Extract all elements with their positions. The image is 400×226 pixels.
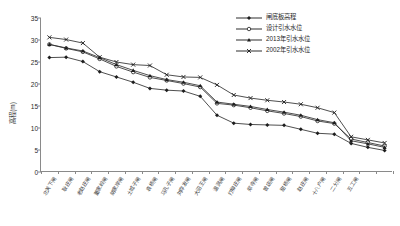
legend-label: 2013年引水水位 bbox=[266, 36, 310, 42]
y-tick-label: 10 bbox=[12, 125, 41, 132]
data-point-diamond bbox=[165, 88, 169, 92]
legend-item[interactable]: 2002年引水水位 bbox=[236, 45, 310, 56]
data-point-cross bbox=[247, 49, 251, 53]
x-tick-label: 甜桥闸 bbox=[278, 176, 293, 193]
data-point-diamond bbox=[114, 75, 118, 79]
y-tick-label: 5 bbox=[12, 147, 41, 154]
legend-label: 闸底板高程 bbox=[266, 14, 296, 20]
data-point-diamond bbox=[47, 56, 51, 60]
x-tick-label: 赵庄闸 bbox=[295, 176, 310, 193]
legend-marker-cross-icon bbox=[236, 46, 262, 55]
legend-item[interactable]: 设计引水水位 bbox=[236, 23, 310, 34]
x-tick-label: 老赵庄闸 bbox=[75, 176, 92, 197]
x-tick-mark bbox=[393, 171, 394, 174]
x-tick-label: 打柳庄闸 bbox=[225, 176, 242, 197]
chart-container: 高程(m) 05101520253035 北关下闸耿庄闸老赵庄闸董家岭闸胡家岸闸… bbox=[0, 0, 400, 226]
x-tick-label: 温涡闸 bbox=[211, 176, 226, 193]
x-tick-label: 马孔子闸 bbox=[158, 176, 175, 197]
x-tick-label: 曾店闸 bbox=[262, 176, 277, 193]
x-tick-label: 北关下闸 bbox=[41, 176, 58, 197]
x-tick-label: 刘存发闸 bbox=[175, 176, 192, 197]
data-point-diamond bbox=[98, 70, 102, 74]
x-tick-label: 耿庄闸 bbox=[60, 176, 75, 193]
y-tick-label: 0 bbox=[12, 169, 41, 176]
data-point-diamond bbox=[64, 55, 68, 59]
legend-item[interactable]: 2013年引水水位 bbox=[236, 34, 310, 45]
x-tick-label: 五工闸 bbox=[345, 176, 360, 193]
data-point-triangle bbox=[247, 38, 251, 42]
chart-legend: 闸底板高程设计引水水位2013年引水水位2002年引水水位 bbox=[236, 12, 310, 56]
data-point-diamond bbox=[366, 145, 370, 149]
data-point-diamond bbox=[249, 122, 253, 126]
x-tick-label: 大沼王闸 bbox=[192, 176, 209, 197]
data-point-diamond bbox=[332, 132, 336, 136]
x-tick-label: 袁桥闸 bbox=[144, 176, 159, 193]
legend-marker-circle-icon bbox=[236, 24, 262, 33]
data-point-circle bbox=[247, 27, 251, 31]
series-cross bbox=[47, 35, 386, 145]
legend-item[interactable]: 闸底板高程 bbox=[236, 12, 310, 23]
data-point-diamond bbox=[265, 123, 269, 127]
series-layer bbox=[41, 18, 393, 172]
plot-area: 05101520253035 bbox=[40, 18, 392, 172]
x-tick-label: 胡家岸闸 bbox=[108, 176, 125, 197]
data-point-diamond bbox=[181, 89, 185, 93]
x-tick-label: 郑寺闸 bbox=[245, 176, 260, 193]
data-point-diamond bbox=[131, 80, 135, 84]
x-tick-label: 董家岭闸 bbox=[91, 176, 108, 197]
y-tick-label: 35 bbox=[12, 15, 41, 22]
data-point-diamond bbox=[247, 16, 251, 20]
data-point-diamond bbox=[299, 127, 303, 131]
x-tick-label: 二分闸 bbox=[329, 176, 344, 193]
y-tick-label: 15 bbox=[12, 103, 41, 110]
data-point-diamond bbox=[232, 121, 236, 125]
x-tick-label: 十八户闸 bbox=[309, 176, 326, 197]
y-tick-label: 25 bbox=[12, 59, 41, 66]
data-point-diamond bbox=[383, 148, 387, 152]
y-tick-label: 30 bbox=[12, 37, 41, 44]
data-point-diamond bbox=[282, 123, 286, 127]
data-point-diamond bbox=[316, 131, 320, 135]
data-point-cross bbox=[215, 83, 219, 87]
y-tick-label: 20 bbox=[12, 81, 41, 88]
x-tick-label: 土城子闸 bbox=[125, 176, 142, 197]
data-point-diamond bbox=[81, 60, 85, 64]
series-line bbox=[49, 37, 384, 143]
legend-marker-triangle-icon bbox=[236, 35, 262, 44]
legend-label: 设计引水水位 bbox=[266, 25, 302, 31]
data-point-diamond bbox=[148, 86, 152, 90]
legend-label: 2002年引水水位 bbox=[266, 47, 310, 53]
legend-marker-diamond-icon bbox=[236, 13, 262, 22]
